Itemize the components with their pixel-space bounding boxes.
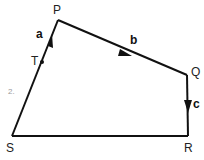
vector-label-b: b: [130, 33, 137, 47]
vertex-label-q: Q: [191, 65, 200, 79]
edge-pq: [58, 20, 187, 75]
vertex-label-s: S: [6, 141, 14, 155]
vertex-label-r: R: [184, 141, 193, 155]
arrow-c-icon: [184, 100, 192, 113]
pencil-annotation: 2.: [8, 87, 15, 96]
vector-label-c: c: [193, 97, 200, 111]
vertex-label-p: P: [53, 3, 61, 17]
point-t-marker: [40, 60, 44, 64]
quadrilateral-diagram: P Q R S T a b c 2.: [0, 0, 204, 160]
point-label-t: T: [31, 54, 39, 68]
vector-label-a: a: [36, 27, 43, 41]
